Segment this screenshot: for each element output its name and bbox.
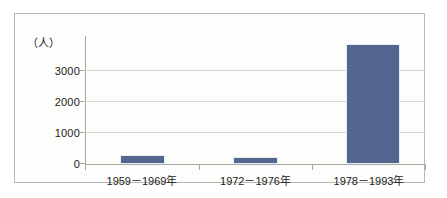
y-tick-label-3000: 3000 [32, 65, 80, 77]
bar-1972-1976[interactable] [233, 157, 278, 164]
x-label-category-0: 1959－1969年 [85, 172, 199, 188]
x-label-category-2: 1978－1993年 [312, 172, 426, 188]
plot-area [85, 36, 425, 164]
y-axis-tick-labels: 3000 2000 1000 0 [25, 14, 80, 184]
x-tick-mark-end [425, 165, 426, 170]
chart-screenshot: （人） 3000 2000 1000 0 [0, 0, 447, 198]
x-tick-mark-start [85, 165, 86, 170]
x-tick-mark-2 [312, 165, 313, 170]
x-axis-line [85, 164, 426, 165]
bar-1959-1969[interactable] [120, 155, 165, 164]
x-axis-category-labels: 1959－1969年 1972－1976年 1978－1993年 [85, 172, 426, 190]
y-tick-label-2000: 2000 [32, 96, 80, 108]
x-tick-mark-1 [199, 165, 200, 170]
chart-frame: （人） 3000 2000 1000 0 [14, 13, 425, 183]
x-label-category-1: 1972－1976年 [199, 172, 312, 188]
y-tick-label-1000: 1000 [32, 127, 80, 139]
bar-1978-1993[interactable] [346, 44, 400, 164]
y-tick-label-0: 0 [32, 158, 80, 170]
